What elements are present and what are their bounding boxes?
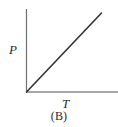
y-axis-label: P: [9, 43, 17, 56]
figure-caption: (B): [0, 110, 118, 122]
figure-panel-b: P T (B): [0, 0, 118, 127]
data-line-proportional: [27, 13, 102, 92]
pressure-temperature-plot: [0, 0, 118, 127]
